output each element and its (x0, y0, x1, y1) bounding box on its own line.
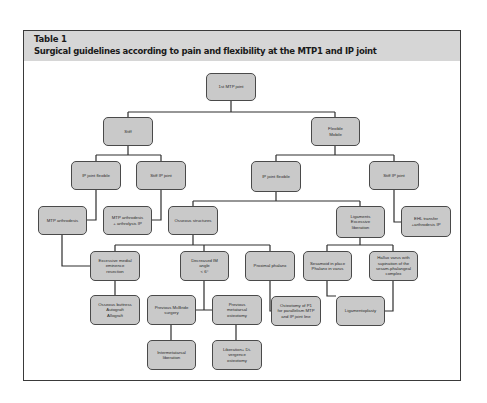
node-sesamoid-in-place: Sesamoid in place Phalanx in varus (303, 251, 352, 281)
node-stiff-ip-joint-right: Stiff IP joint (369, 161, 419, 190)
node-mtp-arthrodesis-arthrolysis: MTP arthrodesis + arthrolysis IP (103, 206, 152, 235)
node-osseous-structures: Osseous structures (168, 206, 218, 235)
node-flexible-mobile: Flexible Mobile (311, 117, 360, 146)
node-ip-joint-flexible-left: IP joint flexible (71, 161, 121, 190)
node-stiff-ip-joint-left: Stiff IP joint (136, 161, 186, 190)
node-hallux-varus: Hallux varus with supination of the sesa… (369, 251, 418, 281)
node-decreased-im-angle: Decreased IM angle < 6° (180, 251, 229, 281)
node-ligaments-excessive-liberation: Ligaments Excessive liberation (336, 206, 385, 238)
node-previous-mcbride-surgery: Previous McBride surgery (147, 295, 196, 325)
node-previous-metatarsal-osteotomy: Previous metatarsal osteotomy (212, 295, 262, 325)
node-intermetatarsal-liberation: Intermetatarsal liberation (147, 340, 196, 370)
node-stiff: Stiff (103, 117, 153, 146)
node-liberation-divergence-osteotomy: Liberation+ Di- vergence osteotomy (212, 340, 262, 370)
node-osteotomy-p1: Osteotomy of P1 for parallelism MTP and … (271, 296, 321, 326)
node-ligamentoplasty: Ligamentoplasty (336, 296, 385, 326)
node-ip-joint-flexible-right: IP joint flexible (251, 161, 301, 192)
node-excessive-medial-eminence-resection: Excessive medial eminence resection (90, 251, 140, 281)
node-mtp-arthrodesis: MTP arthrodesis (38, 206, 87, 235)
node-osseous-buttress: Osseous buttress Autograft Allograft (90, 295, 140, 325)
node-ehl-transfer: EHL transfer +arthrodesis IP (401, 206, 451, 237)
node-proximal-phalanx: Proximal phalanx (245, 251, 295, 281)
node-1st-mtp-joint: 1st MTP joint (206, 73, 256, 101)
